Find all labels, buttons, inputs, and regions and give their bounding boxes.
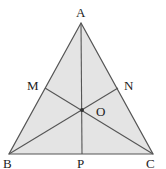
label-c: C — [146, 156, 155, 169]
label-b: B — [3, 156, 12, 169]
triangle-diagram: A B C M N O P — [0, 0, 166, 169]
point-o — [80, 108, 84, 112]
label-n: N — [124, 78, 134, 93]
label-a: A — [76, 5, 86, 20]
label-o: O — [96, 104, 105, 119]
label-m: M — [27, 78, 39, 93]
label-p: P — [77, 156, 84, 169]
